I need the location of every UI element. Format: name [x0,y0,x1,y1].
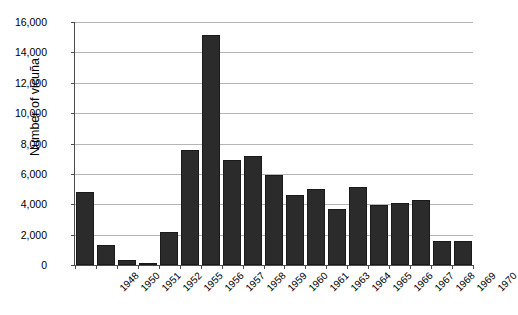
x-tick-mark [347,265,348,269]
bar [265,175,283,265]
bar [97,245,115,266]
y-tick-label: 2,000 [0,229,47,241]
bar [76,192,94,265]
x-tick-mark [75,265,76,269]
x-tick-mark [452,265,453,269]
x-tick-mark [117,265,118,269]
bar [118,260,136,265]
bar [433,241,451,265]
x-tick-mark [368,265,369,269]
bar [244,156,262,265]
bar [139,263,157,265]
bar [454,241,472,265]
x-tick-mark [243,265,244,269]
y-tick-label: 16,000 [0,16,47,28]
x-tick-mark [305,265,306,269]
y-tick-label: 14,000 [0,46,47,58]
x-tick-mark [326,265,327,269]
bar [370,205,388,265]
bar [349,187,367,265]
bar [286,195,304,265]
y-tick-label: 12,000 [0,77,47,89]
bar [307,189,325,265]
x-tick-mark [138,265,139,269]
bar [391,203,409,265]
x-tick-mark [410,265,411,269]
x-tick-mark [431,265,432,269]
x-tick-mark [222,265,223,269]
x-tick-mark [180,265,181,269]
plot-area: 02,0004,0006,0008,00010,00012,00014,0001… [74,22,473,266]
x-tick-mark [264,265,265,269]
bar [181,150,199,265]
x-axis-labels: 1948195019511952195519561957195819591960… [74,270,472,315]
y-tick-label: 8,000 [0,138,47,150]
bar [223,160,241,265]
x-tick-mark [201,265,202,269]
x-tick-mark [284,265,285,269]
x-tick-mark [159,265,160,269]
x-tick-mark [473,265,474,269]
x-tick-mark [96,265,97,269]
y-tick-label: 10,000 [0,107,47,119]
bar [328,209,346,265]
y-tick-label: 4,000 [0,198,47,210]
bar [202,35,220,265]
y-tick-label: 6,000 [0,168,47,180]
bar [160,232,178,265]
bars-group [75,22,473,265]
y-tick-label: 0 [0,259,47,271]
bar [412,200,430,265]
x-tick-mark [389,265,390,269]
